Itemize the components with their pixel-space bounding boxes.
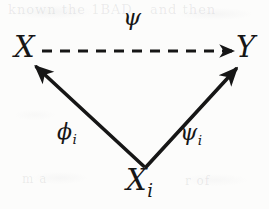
node-Y-base: Y: [236, 30, 255, 64]
edge-phi-i-arrow: [37, 67, 144, 166]
edge-phi-subscript: i: [73, 131, 77, 147]
edge-label-psi-i: ψi: [180, 122, 202, 148]
node-X-base: X: [14, 30, 35, 64]
edge-phi-symbol: ϕ: [57, 119, 72, 144]
node-label-Xi: Xi: [126, 166, 153, 200]
edge-label-phi-i: ϕi: [57, 121, 77, 147]
node-Xi-base: X: [126, 163, 147, 197]
edge-psi-symbol: ψ: [123, 4, 141, 30]
edge-psi-i-arrow: [146, 69, 236, 167]
node-label-X: X: [14, 33, 35, 62]
edge-psi-i-subscript: i: [198, 132, 202, 148]
node-label-Y: Y: [236, 33, 255, 62]
commutative-diagram-figure: known the 1BAD and then m a r of X Y Xi …: [0, 0, 269, 209]
edge-label-psi: ψ: [123, 6, 141, 29]
edge-psi-i-symbol: ψ: [180, 120, 197, 145]
node-Xi-subscript: i: [147, 180, 153, 201]
